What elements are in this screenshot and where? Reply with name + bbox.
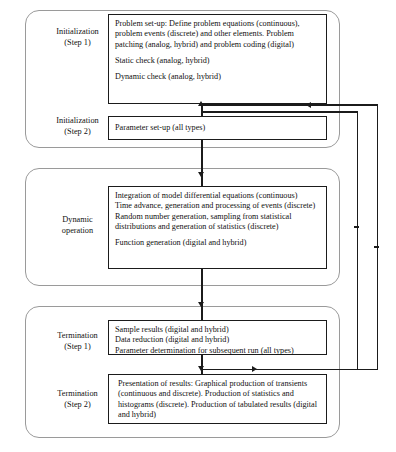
phase-label-line1: Dynamic xyxy=(62,215,92,224)
activity-paragraph: Integration of model differential equati… xyxy=(115,191,321,201)
activity-paragraph: Static check (analog, hybrid) xyxy=(115,56,321,66)
activity-box-termination-step1: Sample results (digital and hybrid) Data… xyxy=(108,320,327,355)
activity-paragraph: Function generation (digital and hybrid) xyxy=(115,238,321,248)
activity-paragraph: Presentation of results: Graphical produ… xyxy=(118,379,321,421)
activity-paragraph: Parameter set-up (all types) xyxy=(115,123,321,133)
feedback-outer-bottom-segment xyxy=(201,369,378,371)
connector-dynamic-termination-arrowhead xyxy=(198,302,204,307)
activity-box-initialization-step1: Problem set-up: Define problem equations… xyxy=(108,14,327,104)
connector-init-step2-dynamic-line xyxy=(201,140,203,186)
activity-paragraph: Data reduction (digital and hybrid) xyxy=(115,335,321,345)
activity-paragraph: Random number generation, sampling from … xyxy=(115,212,321,233)
feedback-outer-arrowhead-left xyxy=(306,102,311,108)
activity-paragraph: Problem set-up: Define problem equations… xyxy=(115,19,321,50)
feedback-outer-direction-tick xyxy=(374,246,379,248)
phase-label-line1: Termination xyxy=(57,389,97,398)
flowchart-diagram: Initialization (Step 1) Problem set-up: … xyxy=(0,0,396,452)
feedback-inner-direction-tick xyxy=(354,226,359,228)
phase-label-line1: Initialization xyxy=(56,116,98,125)
feedback-outer-top-segment xyxy=(201,104,378,106)
phase-label-line1: Initialization xyxy=(56,27,98,36)
activity-paragraph: Time advance, generation and processing … xyxy=(115,201,321,211)
connector-dynamic-termination-line xyxy=(201,269,203,320)
connector-init-step2-dynamic-arrowhead xyxy=(198,172,204,177)
activity-paragraph-group: Integration of model differential equati… xyxy=(115,191,321,212)
phase-label-line1: Termination xyxy=(57,331,97,340)
feedback-outer-right-segment xyxy=(377,105,379,369)
activity-box-dynamic-operation: Integration of model differential equati… xyxy=(108,186,327,269)
activity-box-initialization-step2: Parameter set-up (all types) xyxy=(108,116,327,140)
feedback-inner-right-segment xyxy=(357,112,359,369)
activity-paragraph: Parameter determination for subsequent r… xyxy=(115,346,321,356)
activity-box-termination-step2: Presentation of results: Graphical produ… xyxy=(108,374,327,424)
activity-paragraph: Sample results (digital and hybrid) xyxy=(115,325,321,335)
connector-termination-step1-step2-line xyxy=(201,355,203,374)
feedback-inner-top-segment xyxy=(201,111,358,113)
activity-paragraph: Dynamic check (analog, hybrid) xyxy=(115,72,321,82)
